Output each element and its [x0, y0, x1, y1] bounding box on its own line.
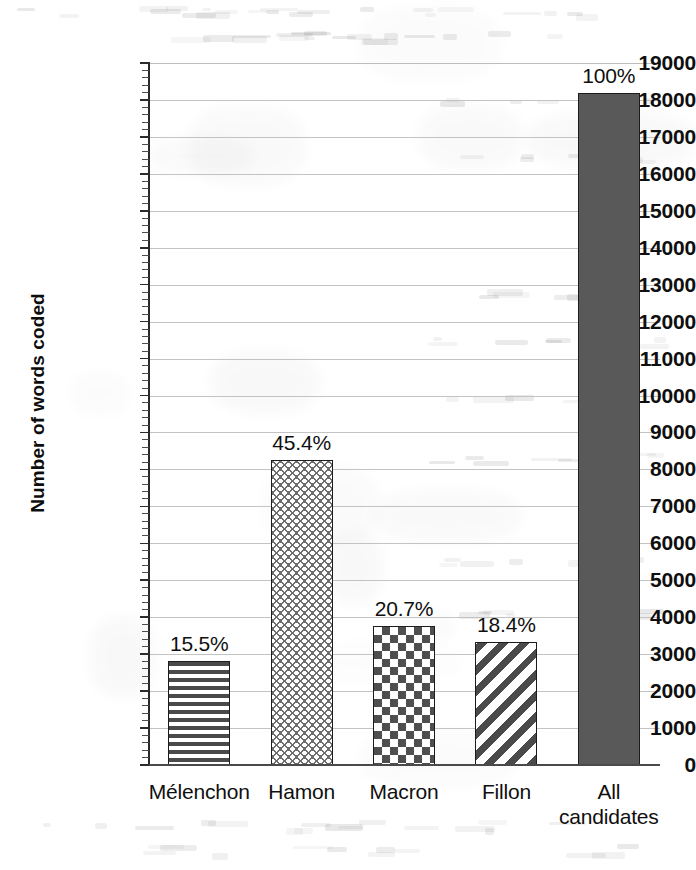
y-axis-tick-label: 1000: [604, 717, 696, 738]
y-axis-minor-tick: [142, 388, 149, 389]
y-axis-minor-tick: [142, 225, 149, 226]
y-axis-minor-tick: [142, 181, 149, 182]
y-axis-minor-tick: [142, 713, 149, 714]
y-axis-minor-tick: [142, 166, 149, 167]
y-axis-major-tick: [140, 653, 149, 655]
y-axis-major-tick: [140, 358, 149, 360]
y-axis-minor-tick: [142, 144, 149, 145]
y-axis-minor-tick: [142, 587, 149, 588]
y-axis-tick-label: 18000: [604, 89, 696, 110]
y-axis-minor-tick: [142, 683, 149, 684]
y-axis-minor-tick: [142, 365, 149, 366]
y-axis-minor-tick: [142, 498, 149, 499]
y-axis-tick-label: 17000: [604, 126, 696, 147]
y-axis-minor-tick: [142, 462, 149, 463]
y-axis-minor-tick: [142, 292, 149, 293]
y-axis-minor-tick: [142, 417, 149, 418]
y-axis-tick-label: 2000: [604, 680, 696, 701]
y-axis-minor-tick: [142, 550, 149, 551]
y-axis-minor-tick: [142, 565, 149, 566]
y-axis-tick-label: 13000: [604, 274, 696, 295]
y-axis-major-tick: [140, 62, 149, 64]
y-axis-major-tick: [140, 284, 149, 286]
y-axis-minor-tick: [142, 646, 149, 647]
axis-tick-layer: 1900018000170001600015000140001300012000…: [0, 0, 696, 870]
y-axis-minor-tick: [142, 439, 149, 440]
y-axis-minor-tick: [142, 595, 149, 596]
y-axis-minor-tick: [142, 196, 149, 197]
y-axis-minor-tick: [142, 188, 149, 189]
y-axis-minor-tick: [142, 757, 149, 758]
y-axis-minor-tick: [142, 602, 149, 603]
y-axis-major-tick: [140, 395, 149, 397]
y-axis-major-tick: [140, 616, 149, 618]
y-axis-minor-tick: [142, 306, 149, 307]
y-axis-major-tick: [140, 469, 149, 471]
y-axis-minor-tick: [142, 373, 149, 374]
y-axis-minor-tick: [142, 203, 149, 204]
y-axis-major-tick: [140, 764, 149, 766]
y-axis-tick-label: 4000: [604, 606, 696, 627]
y-axis-tick-label: 19000: [604, 52, 696, 73]
y-axis-major-tick: [140, 321, 149, 323]
y-axis-minor-tick: [142, 232, 149, 233]
y-axis-minor-tick: [142, 513, 149, 514]
y-axis-minor-tick: [142, 85, 149, 86]
y-axis-minor-tick: [142, 631, 149, 632]
y-axis-minor-tick: [142, 218, 149, 219]
y-axis-tick-label: 11000: [604, 348, 696, 369]
y-axis-minor-tick: [142, 402, 149, 403]
y-axis-minor-tick: [142, 572, 149, 573]
y-axis-minor-tick: [142, 343, 149, 344]
y-axis-minor-tick: [142, 240, 149, 241]
y-axis-minor-tick: [142, 705, 149, 706]
y-axis-minor-tick: [142, 269, 149, 270]
y-axis-minor-tick: [142, 159, 149, 160]
y-axis-minor-tick: [142, 151, 149, 152]
y-axis-minor-tick: [142, 491, 149, 492]
y-axis-minor-tick: [142, 336, 149, 337]
y-axis-tick-label: 6000: [604, 532, 696, 553]
y-axis-tick-label: 8000: [604, 458, 696, 479]
y-axis-tick-label: 14000: [604, 237, 696, 258]
y-axis-major-tick: [140, 210, 149, 212]
y-axis-minor-tick: [142, 77, 149, 78]
y-axis-tick-label: 9000: [604, 421, 696, 442]
y-axis-minor-tick: [142, 255, 149, 256]
y-axis-minor-tick: [142, 668, 149, 669]
y-axis-minor-tick: [142, 107, 149, 108]
y-axis-minor-tick: [142, 661, 149, 662]
y-axis-minor-tick: [142, 329, 149, 330]
y-axis-minor-tick: [142, 299, 149, 300]
y-axis-minor-tick: [142, 528, 149, 529]
y-axis-tick-label: 16000: [604, 163, 696, 184]
y-axis-minor-tick: [142, 351, 149, 352]
y-axis-minor-tick: [142, 425, 149, 426]
y-axis-major-tick: [140, 727, 149, 729]
y-axis-minor-tick: [142, 742, 149, 743]
y-axis-minor-tick: [142, 735, 149, 736]
y-axis-minor-tick: [142, 624, 149, 625]
y-axis-minor-tick: [142, 609, 149, 610]
y-axis-minor-tick: [142, 122, 149, 123]
y-axis-major-tick: [140, 579, 149, 581]
y-axis-tick-label: 10000: [604, 385, 696, 406]
y-axis-minor-tick: [142, 750, 149, 751]
y-axis-minor-tick: [142, 639, 149, 640]
y-axis-tick-label: 3000: [604, 643, 696, 664]
y-axis-major-tick: [140, 432, 149, 434]
y-axis-minor-tick: [142, 277, 149, 278]
y-axis-minor-tick: [142, 558, 149, 559]
y-axis-minor-tick: [142, 454, 149, 455]
y-axis-minor-tick: [142, 720, 149, 721]
bar-chart-figure: Number of words coded 190001800017000160…: [0, 0, 696, 870]
y-axis-minor-tick: [142, 70, 149, 71]
y-axis-major-tick: [140, 136, 149, 138]
y-axis-major-tick: [140, 506, 149, 508]
y-axis-minor-tick: [142, 535, 149, 536]
y-axis-tick-label: 12000: [604, 311, 696, 332]
y-axis-major-tick: [140, 690, 149, 692]
y-axis-tick-label: 7000: [604, 495, 696, 516]
y-axis-major-tick: [140, 247, 149, 249]
y-axis-minor-tick: [142, 380, 149, 381]
